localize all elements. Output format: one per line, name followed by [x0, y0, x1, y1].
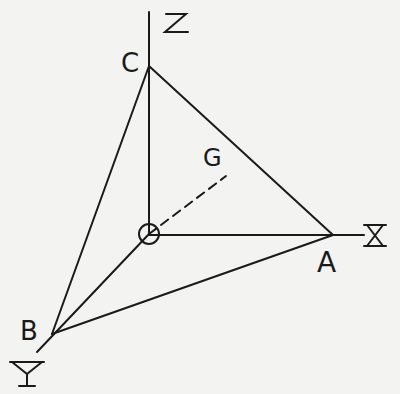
tetrahedron-figure — [0, 0, 400, 394]
point-label-a: A — [317, 249, 336, 277]
z-axis-label-glyph — [165, 14, 188, 32]
edge-ab — [52, 235, 333, 334]
point-label-b: B — [20, 318, 38, 344]
point-label-c: C — [121, 50, 139, 76]
edge-cb — [52, 66, 149, 334]
dashed-og — [149, 176, 226, 234]
edge-ca — [149, 66, 333, 235]
point-label-g: G — [203, 146, 222, 170]
x-axis-label-glyph — [364, 225, 386, 246]
diagram-canvas: C G A B — [0, 0, 400, 394]
y-axis-label-glyph — [10, 362, 44, 386]
